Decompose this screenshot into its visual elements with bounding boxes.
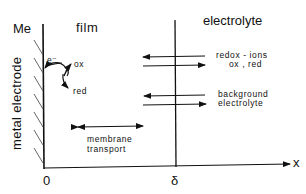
redox-ions-label-line2: ox , red bbox=[229, 60, 262, 69]
background-electrolyte-label-line2: electrolyte bbox=[218, 99, 263, 108]
ox-label: ox bbox=[74, 60, 84, 69]
x-axis-label: x bbox=[293, 156, 300, 169]
x-axis bbox=[44, 164, 290, 168]
film-region-label: film bbox=[76, 21, 98, 34]
electrode-hatching bbox=[34, 40, 43, 163]
electrolyte-region-label: electrolyte bbox=[203, 14, 262, 27]
electron-label: e⁻ bbox=[47, 56, 58, 65]
origin-tick-label: 0 bbox=[43, 174, 50, 187]
film-boundary-line bbox=[175, 20, 176, 167]
membrane-transport-label-line2: transport bbox=[87, 145, 126, 154]
background-electrolyte-arrow-right bbox=[143, 104, 206, 105]
film-electrode-diagram: Me film electrolyte metal electrode e⁻ o… bbox=[0, 0, 306, 194]
membrane-transport-label-line1: membrane bbox=[87, 135, 132, 144]
red-label: red bbox=[73, 87, 87, 96]
redox-ions-arrow-left bbox=[143, 56, 205, 57]
metal-electrode-label: metal electrode bbox=[10, 57, 23, 150]
membrane-transport-arrow bbox=[78, 126, 143, 127]
background-electrolyte-arrow-left bbox=[144, 95, 205, 96]
delta-tick-label: δ bbox=[171, 174, 178, 187]
electrode-interface-line bbox=[43, 24, 44, 169]
redox-ions-arrow-right bbox=[143, 65, 205, 66]
electrode-symbol: Me bbox=[13, 22, 31, 35]
